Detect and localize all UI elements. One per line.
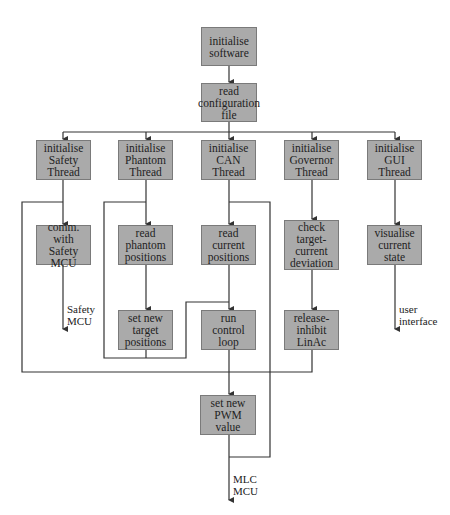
output-label-user-interface: userinterface: [399, 303, 437, 327]
node-label: release-inhibit LinAc: [287, 312, 336, 348]
node-initialise-software: initialise software: [201, 27, 257, 66]
node-read-current-positions: read current positions: [201, 225, 256, 265]
node-release-inhibit-linac: release-inhibit LinAc: [284, 310, 339, 350]
node-check-deviation: check target-current deviation: [284, 220, 339, 270]
node-set-target-positions: set new target positions: [118, 310, 173, 350]
node-read-phantom-positions: read phantom positions: [118, 225, 173, 265]
node-comm-safety-mcu: comm. with Safety MCU: [36, 225, 91, 265]
node-label: initialise Phantom Thread: [121, 142, 170, 178]
node-label: set new PWM value: [203, 397, 253, 433]
node-init-safety-thread: initialise Safety Thread: [36, 140, 91, 180]
node-set-pwm-value: set new PWM value: [200, 395, 256, 435]
node-init-phantom-thread: initialise Phantom Thread: [118, 140, 173, 180]
node-run-control-loop: run control loop: [201, 310, 256, 350]
node-label: check target-current deviation: [287, 221, 336, 269]
node-label: initialise CAN Thread: [204, 142, 253, 178]
node-label: visualise current state: [370, 227, 419, 263]
output-label-mlc-mcu: MLCMCU: [233, 473, 258, 497]
node-label: read current positions: [204, 227, 253, 263]
node-label: comm. with Safety MCU: [39, 221, 88, 269]
output-label-safety-mcu: SafetyMCU: [67, 303, 95, 327]
node-label: read phantom positions: [121, 227, 170, 263]
node-label: set new target positions: [121, 312, 170, 348]
node-read-config: read configuration file: [201, 83, 257, 122]
node-label: initialise GUI Thread: [370, 142, 419, 178]
node-label: run control loop: [204, 312, 253, 348]
node-init-can-thread: initialise CAN Thread: [201, 140, 256, 180]
node-init-gui-thread: initialise GUI Thread: [367, 140, 422, 180]
node-visualise-state: visualise current state: [367, 225, 422, 265]
node-label: initialise software: [204, 35, 254, 59]
node-label: initialise Safety Thread: [39, 142, 88, 178]
node-init-governor-thread: initialise Governor Thread: [284, 140, 339, 180]
flowchart-diagram: initialise software read configuration f…: [0, 0, 450, 515]
node-label: read configuration file: [198, 85, 260, 121]
node-label: initialise Governor Thread: [287, 142, 336, 178]
